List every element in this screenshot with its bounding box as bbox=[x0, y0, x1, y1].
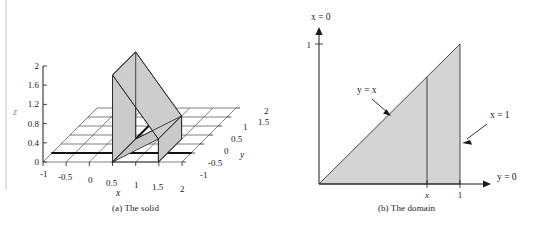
right-edge-annotation: x = 1 bbox=[462, 110, 510, 145]
y-tick-label-1: 1 bbox=[243, 122, 248, 132]
x-tick-label-0: 0 bbox=[88, 175, 93, 185]
z-tick-label-2: 2 bbox=[35, 61, 40, 71]
z-tick-label-0p4: 0.4 bbox=[28, 138, 40, 148]
x-tick-label-1p5: 1.5 bbox=[152, 182, 164, 192]
y-tick-label-1p5: 1.5 bbox=[258, 117, 270, 127]
y-tick-label-neg1: -1 bbox=[200, 170, 208, 180]
right-edge-leader-arrowhead bbox=[462, 140, 472, 145]
y-tick-label-neg0p5: -0.5 bbox=[208, 158, 223, 168]
x-tick-label-neg1: -1 bbox=[40, 169, 48, 179]
y-axis-label: y bbox=[239, 150, 245, 160]
panel-b-svg: 1 x 1 x = 0 y = 0 y = x x = bbox=[271, 0, 542, 229]
x-tick-label-1: 1 bbox=[458, 190, 463, 200]
hypotenuse-label: y = x bbox=[357, 85, 377, 95]
horizontal-axis-arrowhead bbox=[483, 180, 491, 187]
caption-panel-a: (a) The solid bbox=[0, 203, 271, 213]
x-tick-label-2: 2 bbox=[180, 184, 185, 194]
y-tick-label-0p5: 0.5 bbox=[231, 134, 243, 144]
x-tick-label-neg0p5: -0.5 bbox=[58, 172, 73, 182]
z-tick-label-0p8: 0.8 bbox=[28, 119, 40, 129]
z-axis-label: z bbox=[12, 107, 17, 117]
y-tick-label-0: 0 bbox=[224, 146, 229, 156]
z-tick-label-0: 0 bbox=[35, 157, 40, 167]
y-tick-label-1: 1 bbox=[307, 40, 312, 50]
x-tick-label-0p5: 0.5 bbox=[106, 178, 118, 188]
x-axis-label: x bbox=[115, 188, 121, 198]
vertical-axis: 1 bbox=[307, 27, 324, 184]
horizontal-axis-name: y = 0 bbox=[497, 172, 517, 182]
hypotenuse-annotation: y = x bbox=[357, 85, 391, 116]
solid-wedge bbox=[113, 52, 182, 162]
figure-container: 2 1.6 1.2 0.8 0.4 0 z -1 -0.5 0 0 bbox=[0, 0, 542, 229]
x-tick-label-x: x bbox=[424, 190, 429, 200]
y-tick-label-2: 2 bbox=[264, 106, 269, 116]
vertical-axis-arrowhead bbox=[315, 27, 322, 35]
panel-the-solid: 2 1.6 1.2 0.8 0.4 0 z -1 -0.5 0 0 bbox=[0, 0, 271, 229]
hypotenuse-leader-arrowhead bbox=[383, 109, 391, 116]
x-tick-label-1: 1 bbox=[134, 180, 139, 190]
z-tick-label-1p2: 1.2 bbox=[28, 99, 39, 109]
right-edge-label: x = 1 bbox=[490, 110, 510, 120]
x-axis: -1 -0.5 0 0.5 1 1.5 2 x bbox=[40, 162, 185, 198]
panel-the-domain: 1 x 1 x = 0 y = 0 y = x x = bbox=[271, 0, 542, 229]
caption-panel-b: (b) The domain bbox=[271, 203, 542, 213]
z-axis: 2 1.6 1.2 0.8 0.4 0 z bbox=[12, 61, 47, 167]
panel-a-svg: 2 1.6 1.2 0.8 0.4 0 z -1 -0.5 0 0 bbox=[0, 0, 271, 229]
vertical-axis-name: x = 0 bbox=[311, 12, 331, 22]
z-tick-label-1p6: 1.6 bbox=[28, 80, 40, 90]
